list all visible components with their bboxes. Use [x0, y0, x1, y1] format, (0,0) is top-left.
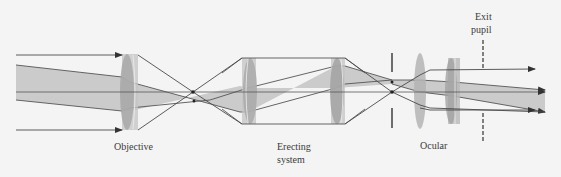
focal-point-2b: [391, 81, 394, 84]
ocular-label: Ocular: [420, 140, 447, 152]
ocular-eye-lens: [445, 58, 460, 124]
focal-point-1b: [193, 100, 196, 103]
erecting-system-label-line1: Erecting: [277, 141, 311, 153]
erecting-lens-2: [330, 58, 345, 124]
erecting-lens-1: [242, 58, 257, 124]
ocular-field-lens: [414, 53, 426, 129]
focal-point-2: [390, 90, 394, 94]
focal-point-1: [191, 90, 195, 94]
exit-pupil-label-line2: pupil: [471, 24, 492, 36]
oblique-beam: [16, 65, 545, 112]
exit-pupil-label-line1: Exit: [475, 11, 492, 23]
objective-label: Objective: [114, 141, 153, 153]
erecting-system-label-line2: system: [277, 154, 305, 166]
optical-diagram: Objective Erecting system Ocular Exit pu…: [0, 0, 561, 177]
